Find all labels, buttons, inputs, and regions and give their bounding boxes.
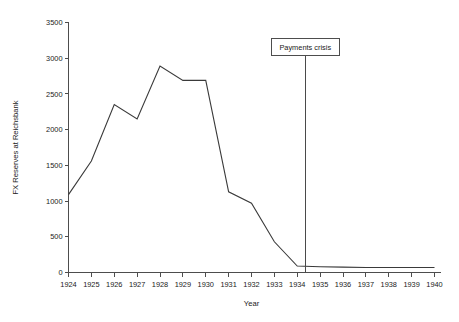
- series-polyline: [69, 66, 435, 267]
- x-tick-label: 1940: [426, 280, 442, 289]
- y-axis-title: FX Reserves at Reichsbank: [11, 100, 20, 194]
- x-tick-label: 1936: [335, 280, 351, 289]
- y-tick-label: 2500: [46, 90, 62, 99]
- x-tick-label: 1927: [129, 280, 145, 289]
- x-tick-label: 1934: [289, 280, 305, 289]
- chart-container: 0500100015002000250030003500 19241925192…: [0, 0, 459, 322]
- x-axis-title: Year: [244, 299, 260, 308]
- payments-crisis-label-text: Payments crisis: [279, 43, 331, 52]
- annotation-group: Payments crisis: [271, 38, 339, 273]
- x-tick-label: 1933: [266, 280, 282, 289]
- x-tick-label: 1926: [106, 280, 122, 289]
- fx-reserves-line-chart: 0500100015002000250030003500 19241925192…: [0, 0, 459, 322]
- y-tick-label: 1500: [46, 161, 62, 170]
- x-axis: 1924192519261927192819291930193119321933…: [60, 273, 442, 290]
- x-tick-label: 1925: [83, 280, 99, 289]
- y-axis: 0500100015002000250030003500: [46, 18, 68, 277]
- x-tick-label: 1930: [198, 280, 214, 289]
- x-tick-label: 1938: [381, 280, 397, 289]
- x-tick-label: 1929: [175, 280, 191, 289]
- y-tick-label: 1000: [46, 197, 62, 206]
- y-tick-label: 3500: [46, 18, 62, 27]
- x-tick-label: 1937: [358, 280, 374, 289]
- x-tick-label: 1924: [60, 280, 76, 289]
- x-tick-label: 1939: [403, 280, 419, 289]
- x-tick-label: 1928: [152, 280, 168, 289]
- y-tick-label: 500: [50, 232, 62, 241]
- y-tick-label: 0: [58, 268, 62, 277]
- data-series-group: [69, 66, 435, 267]
- x-tick-label: 1931: [220, 280, 236, 289]
- y-tick-label: 3000: [46, 54, 62, 63]
- x-tick-label: 1932: [243, 280, 259, 289]
- x-tick-label: 1935: [312, 280, 328, 289]
- y-tick-label: 2000: [46, 125, 62, 134]
